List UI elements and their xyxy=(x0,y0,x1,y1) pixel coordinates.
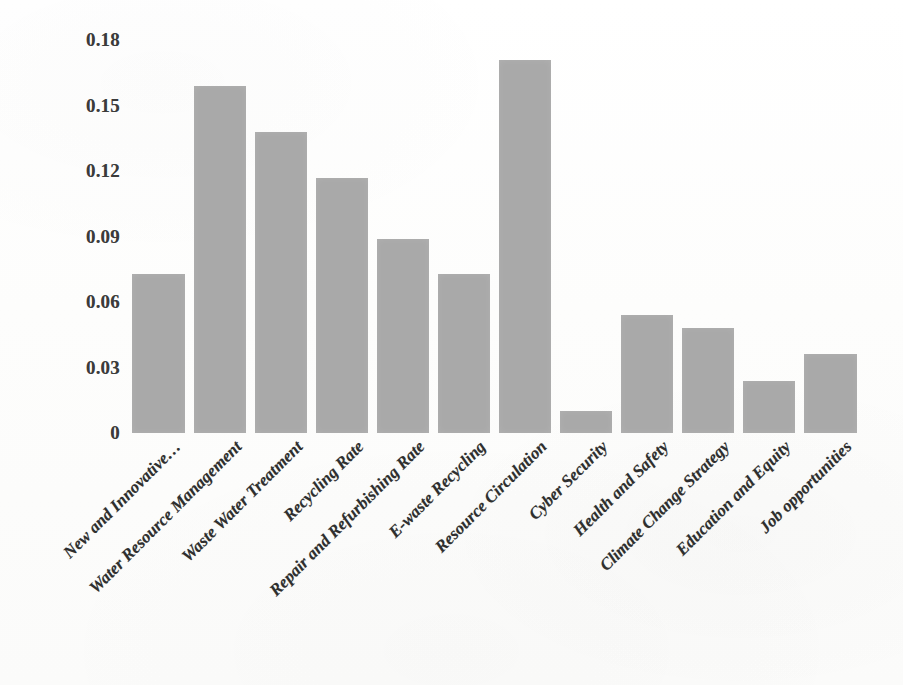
y-axis-tick-label: 0.06 xyxy=(50,291,120,313)
bar xyxy=(621,315,673,433)
y-axis-tick-label: 0.03 xyxy=(50,357,120,379)
plot-area xyxy=(128,40,861,433)
bar xyxy=(743,381,795,433)
x-axis-label: Resource Circulation xyxy=(431,437,551,557)
x-axis-category-labels: New and Innovative…Water Resource Manage… xyxy=(128,437,861,677)
bar-slot xyxy=(560,40,612,433)
bar-slot xyxy=(682,40,734,433)
bar xyxy=(255,132,307,433)
bar xyxy=(316,178,368,433)
bar-slot xyxy=(377,40,429,433)
bar xyxy=(804,354,856,433)
bar xyxy=(499,60,551,433)
y-axis-tick-label: 0.09 xyxy=(50,226,120,248)
bar-slot xyxy=(804,40,856,433)
bar-slot xyxy=(438,40,490,433)
y-axis-tick-label: 0 xyxy=(50,422,120,444)
y-axis-tick-label: 0.18 xyxy=(50,29,120,51)
x-axis-label: Education and Equity xyxy=(672,437,795,560)
bar-slot xyxy=(194,40,246,433)
bar-chart: 0.180.150.120.090.060.030 New and Innova… xyxy=(0,0,903,685)
y-axis-tick-label: 0.15 xyxy=(50,95,120,117)
bar xyxy=(132,274,184,433)
bar xyxy=(560,411,612,433)
y-axis-tick-label: 0.12 xyxy=(50,160,120,182)
bar xyxy=(682,328,734,433)
bar xyxy=(194,86,246,433)
bar-slot xyxy=(499,40,551,433)
bar-slot xyxy=(316,40,368,433)
bar xyxy=(377,239,429,433)
bar-slot xyxy=(132,40,184,433)
bar-slot xyxy=(621,40,673,433)
bar xyxy=(438,274,490,433)
bar-slot xyxy=(255,40,307,433)
bar-slot xyxy=(743,40,795,433)
